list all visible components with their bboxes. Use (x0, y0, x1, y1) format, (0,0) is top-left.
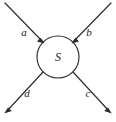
edge-a-arrowhead (37, 38, 45, 44)
edge-c-line (73, 72, 109, 111)
edge-d-label: d (24, 87, 30, 99)
edge-b-line (74, 3, 111, 41)
edge-a-label: a (21, 26, 27, 38)
edge-b-group: b (71, 3, 111, 44)
edge-c-group: c (73, 72, 112, 114)
edge-c-arrowhead (104, 108, 112, 114)
edge-d-group: d (4, 72, 43, 114)
edge-a-group: a (5, 3, 45, 44)
edge-c-label: c (86, 87, 91, 99)
scattering-diagram-figure: a b S d c (0, 0, 116, 122)
edge-d-arrowhead (4, 108, 12, 114)
edge-b-arrowhead (71, 38, 79, 44)
edge-b-label: b (86, 26, 92, 38)
scattering-node-label: S (55, 50, 61, 64)
scattering-diagram-canvas: a b S d c (0, 0, 116, 122)
